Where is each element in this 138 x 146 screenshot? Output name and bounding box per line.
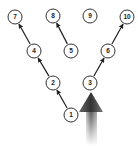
edge-arrow-2-4 [38,58,49,76]
edge-arrow-5-8 [57,23,68,44]
edge-arrow-1-2 [57,90,67,108]
node-8: 8 [46,9,60,23]
node-4: 4 [27,44,41,58]
node-label: 7 [13,13,17,20]
node-label: 3 [88,79,92,86]
node-6: 6 [101,44,115,58]
node-3: 3 [83,76,97,90]
node-label: 10 [123,13,131,20]
node-label: 1 [69,111,73,118]
node-2: 2 [46,76,60,90]
node-label: 8 [51,12,55,19]
node-10: 10 [120,10,134,24]
edge-arrow-3-6 [94,58,104,76]
node-label: 6 [106,47,110,54]
node-label: 2 [51,79,55,86]
edge-arrow-6-10 [112,24,123,44]
tree-diagram: 12345678910 [0,0,138,146]
big-arrow-icon [79,92,103,146]
edges [19,23,123,108]
nodes: 12345678910 [8,9,134,122]
node-5: 5 [64,44,78,58]
edge-arrow-4-7 [19,24,30,44]
node-label: 4 [32,47,36,54]
node-label: 5 [69,47,73,54]
node-7: 7 [8,10,22,24]
node-label: 9 [88,12,92,19]
node-9: 9 [83,9,97,23]
node-1: 1 [64,108,78,122]
